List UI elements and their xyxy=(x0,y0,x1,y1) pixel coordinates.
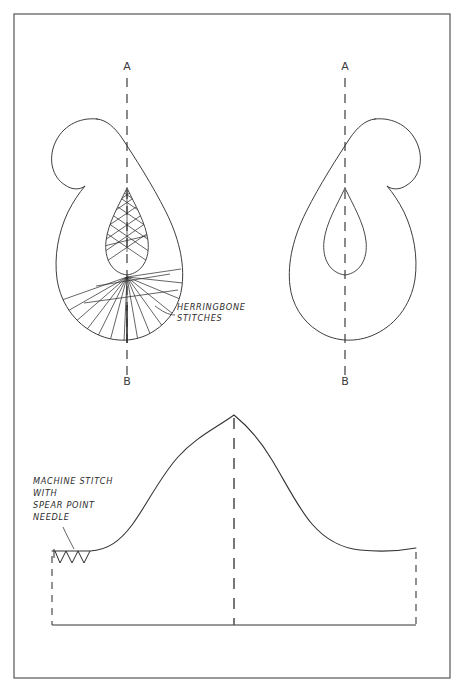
section-label-a-right: A xyxy=(341,60,349,73)
herringbone-label-line-2: STITCHES xyxy=(177,313,222,323)
section-label-a-left: A xyxy=(123,60,131,73)
section-label-b-left: B xyxy=(123,375,131,388)
page-background xyxy=(0,0,465,695)
section-label-b-right: B xyxy=(341,375,349,388)
machine-stitch-label-line-1: MACHINE STITCH xyxy=(33,476,113,486)
machine-stitch-label-line-2: WITH xyxy=(33,488,57,498)
herringbone-label-line-1: HERRINGBONE xyxy=(177,302,246,312)
technical-illustration: A B xyxy=(0,0,465,695)
machine-stitch-label-line-3: SPEAR POINT xyxy=(33,500,95,510)
diagram-page: A B xyxy=(0,0,465,695)
machine-stitch-label-line-4: NEEDLE xyxy=(33,512,70,522)
